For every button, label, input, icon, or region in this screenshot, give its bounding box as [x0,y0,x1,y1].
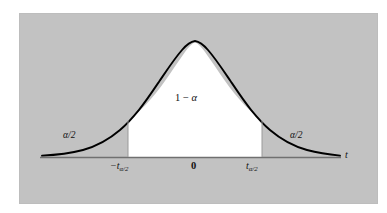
tick-label-center: 0 [191,161,196,172]
tail-area-label-left: α/2 [63,131,75,141]
tick-left-sign: − [110,160,117,171]
confidence-level-symbol: α [191,92,197,103]
tick-label-critical-value-negative: −tα/2 [110,161,128,173]
tick-label-critical-value-positive: tα/2 [246,161,258,173]
tick-right-subscript: α/2 [249,165,258,172]
figure-root: 1 − α α/2 α/2 −tα/2 0 tα/2 t [0,0,387,213]
axis-label-t: t [345,150,348,160]
tail-area-label-right: α/2 [290,131,302,141]
confidence-level-label: 1 − α [175,93,197,104]
tick-left-subscript: α/2 [120,165,129,172]
figure-panel-background [20,14,377,203]
